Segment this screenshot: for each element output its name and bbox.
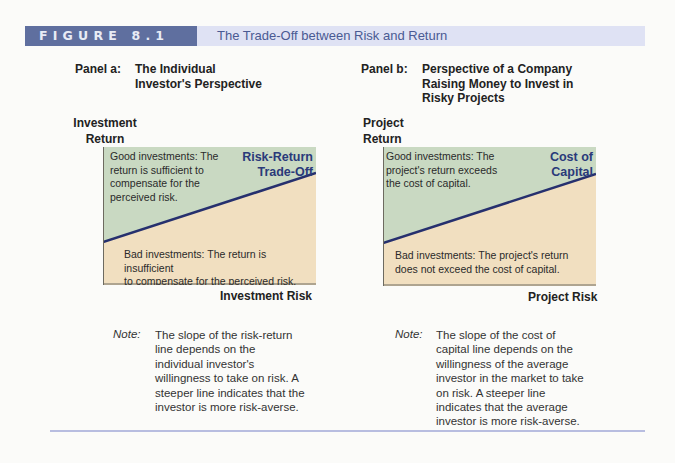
panel-a-bad-region-text: Bad investments: The return is insuffici… xyxy=(124,248,316,285)
text-line: Good investments: The xyxy=(386,150,497,164)
figure-label: FIGURE 8.1 xyxy=(39,28,169,43)
panel-b-title-line2: Raising Money to Invest in xyxy=(422,77,573,92)
figure-label-bar: FIGURE 8.1 xyxy=(25,26,197,46)
text-line: Risk-Return xyxy=(242,150,313,165)
panel-a-note-key: Note: xyxy=(113,328,141,340)
figure-bottom-rule xyxy=(50,430,645,432)
text-line: return is sufficient to xyxy=(110,164,218,178)
text-line: willingness of the average xyxy=(436,357,584,371)
panel-a-x-axis-label: Investment Risk xyxy=(220,289,312,303)
panel-b-note-key: Note: xyxy=(395,328,423,340)
panel-a-y-axis-line2: Return xyxy=(70,131,140,147)
text-line: Bad investments: The project's return xyxy=(395,249,568,263)
text-line: project's return exceeds xyxy=(386,164,497,178)
text-line: willingness to take on risk. A xyxy=(155,371,305,385)
panel-b-title: Perspective of a Company Raising Money t… xyxy=(422,62,573,106)
panel-a-good-region-text: Good investments: The return is sufficie… xyxy=(110,150,218,204)
panel-b-good-region-text: Good investments: The project's return e… xyxy=(386,150,497,191)
text-line: investor is more risk-averse. xyxy=(436,414,584,428)
text-line: individual investor's xyxy=(155,357,305,371)
figure-title: The Trade-Off between Risk and Return xyxy=(217,28,447,43)
text-line: perceived risk. xyxy=(110,191,218,205)
figure-title-bar: The Trade-Off between Risk and Return xyxy=(197,26,645,46)
text-line: line depends on the xyxy=(155,342,305,356)
text-line: compensate for the xyxy=(110,177,218,191)
text-line: to compensate for the perceived risk. xyxy=(124,275,316,285)
panel-b-bad-region-text: Bad investments: The project's return do… xyxy=(395,249,568,276)
panel-a-line-label: Risk-Return Trade-Off xyxy=(242,150,313,180)
text-line: The slope of the risk-return xyxy=(155,328,305,342)
panel-a-label: Panel a: xyxy=(75,62,121,77)
panel-b-title-line3: Risky Projects xyxy=(422,91,573,106)
text-line: investor in the market to take xyxy=(436,371,584,385)
panel-a-chart: Good investments: The return is sufficie… xyxy=(103,147,316,285)
text-line: Bad investments: The return is insuffici… xyxy=(124,248,316,275)
text-line: indicates that the average xyxy=(436,400,584,414)
panel-a-title-line2: Investor's Perspective xyxy=(135,77,262,92)
panel-a-note-text: The slope of the risk-return line depend… xyxy=(155,328,305,414)
text-line: on risk. A steeper line xyxy=(436,386,584,400)
panel-b-line-label: Cost of Capital xyxy=(550,150,593,180)
text-line: Good investments: The xyxy=(110,150,218,164)
text-line: capital line depends on the xyxy=(436,342,584,356)
panel-b-chart: Good investments: The project's return e… xyxy=(383,147,596,286)
panel-a-title-line1: The Individual xyxy=(135,62,262,77)
text-line: Trade-Off xyxy=(242,165,313,180)
panel-b-x-axis-label: Project Risk xyxy=(528,290,597,304)
panel-a-y-axis-line1: Investment xyxy=(70,115,140,131)
panel-b-y-axis-line2: Return xyxy=(363,131,404,147)
panel-b-title-line1: Perspective of a Company xyxy=(422,62,573,77)
text-line: the cost of capital. xyxy=(386,177,497,191)
panel-b-y-axis-line1: Project xyxy=(363,115,404,131)
text-line: investor is more risk-averse. xyxy=(155,400,305,414)
text-line: The slope of the cost of xyxy=(436,328,584,342)
text-line: Capital xyxy=(550,165,593,180)
text-line: Cost of xyxy=(550,150,593,165)
panel-b-note-text: The slope of the cost of capital line de… xyxy=(436,328,584,429)
panel-a-y-axis-label: Investment Return xyxy=(70,115,140,147)
panel-b-label: Panel b: xyxy=(361,62,408,77)
panel-b-y-axis-label: Project Return xyxy=(363,115,404,147)
panel-a-title: The Individual Investor's Perspective xyxy=(135,62,262,91)
text-line: does not exceed the cost of capital. xyxy=(395,263,568,277)
text-line: steeper line indicates that the xyxy=(155,386,305,400)
